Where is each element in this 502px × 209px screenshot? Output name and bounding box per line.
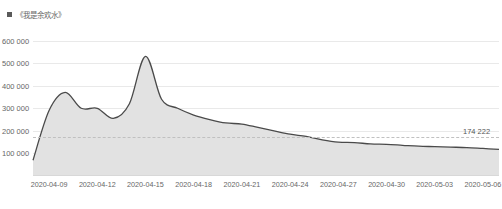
y-axis-tick-label: 300 000 [2,104,29,113]
y-axis-tick-label: 600 000 [2,36,29,45]
chart-legend: 《我是余欢水》 [7,9,65,20]
y-axis-tick-label: 100 000 [2,149,29,158]
axis-baseline [33,175,499,176]
x-axis-tick-label: 2020-04-09 [31,180,68,189]
x-axis-tick-label: 2020-04-21 [224,180,261,189]
x-axis-tick-label: 2020-05-03 [416,180,453,189]
x-axis-tick-label: 2020-04-27 [320,180,357,189]
y-axis-tick-label: 400 000 [2,81,29,90]
x-axis-tick-label: 2020-04-30 [368,180,405,189]
series-area-chart [33,36,499,176]
y-axis-tick-label: 200 000 [2,126,29,135]
x-axis-tick-label: 2020-04-12 [79,180,116,189]
chart-container: 《我是余欢水》 100 000200 000300 000400 000500 … [0,0,502,209]
x-axis-tick-label: 2020-05-06 [465,180,502,189]
plot-area [33,36,499,176]
x-axis-labels: 2020-04-092020-04-122020-04-152020-04-18… [0,180,502,194]
x-axis-tick-label: 2020-04-18 [175,180,212,189]
reference-line [33,137,499,138]
x-axis-tick-label: 2020-04-15 [127,180,164,189]
legend-label: 《我是余欢水》 [16,9,65,20]
x-axis-tick-label: 2020-04-24 [272,180,309,189]
reference-line-label: 174 222 [463,127,490,136]
series-area-fill [33,56,499,176]
legend-swatch-icon [7,12,12,17]
y-axis-tick-label: 500 000 [2,59,29,68]
